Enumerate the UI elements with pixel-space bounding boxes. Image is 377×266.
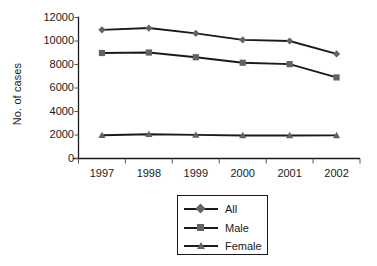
diamond-marker-icon (196, 204, 206, 214)
legend-swatch-male (184, 222, 218, 234)
x-tick-label-2002: 2002 (317, 168, 357, 179)
legend-label-male: Male (225, 222, 249, 234)
x-tick-label-1997: 1997 (82, 168, 122, 179)
legend-label-female: Female (225, 240, 262, 252)
diamond-marker-icon (286, 37, 293, 44)
square-marker-icon (99, 50, 105, 56)
x-tick-label-2000: 2000 (223, 168, 263, 179)
legend-label-all: All (225, 203, 237, 215)
square-marker-icon (146, 49, 152, 55)
legend-swatch-all (184, 203, 218, 215)
axes (74, 17, 361, 164)
diamond-marker-icon (239, 36, 246, 43)
chart-legend: All Male Female (177, 195, 268, 255)
triangle-marker-icon (197, 242, 205, 249)
square-marker-icon (240, 60, 246, 66)
square-marker-icon (197, 224, 204, 231)
x-tick-label-1999: 1999 (176, 168, 216, 179)
series-female (98, 131, 340, 139)
square-marker-icon (193, 54, 199, 60)
legend-item-male[interactable]: Male (184, 219, 249, 237)
x-tick-label-1998: 1998 (129, 168, 169, 179)
x-tick-label-2001: 2001 (270, 168, 310, 179)
diamond-marker-icon (192, 30, 199, 37)
legend-item-female[interactable]: Female (184, 237, 262, 255)
data-series-layer (98, 24, 340, 138)
legend-swatch-female (184, 240, 218, 252)
diamond-marker-icon (145, 24, 152, 31)
line-chart-figure: No. of cases 12000 10000 8000 6000 4000 … (0, 0, 377, 266)
square-marker-icon (287, 61, 293, 67)
diamond-marker-icon (333, 50, 340, 57)
diamond-marker-icon (98, 26, 105, 33)
square-marker-icon (333, 74, 339, 80)
series-male (99, 49, 340, 80)
legend-item-all[interactable]: All (184, 200, 237, 218)
